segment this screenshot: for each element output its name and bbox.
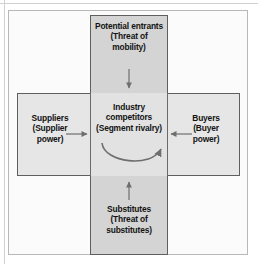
substitutes-label: Substitutes (Threat of substitutes): [90, 204, 168, 235]
scan-edge-top: [0, 3, 258, 4]
suppliers-label: Suppliers (Supplier power): [18, 113, 82, 144]
five-forces-diagram: Potential entrants (Threat of mobility) …: [8, 10, 248, 255]
industry-competitors-label: Industry competitors (Segment rivalry): [86, 102, 172, 133]
diagram-canvas: Potential entrants (Threat of mobility) …: [0, 0, 258, 264]
potential-entrants-label: Potential entrants (Threat of mobility): [90, 21, 168, 52]
scan-edge-left: [4, 0, 5, 264]
buyers-label: Buyers (Buyer power): [174, 113, 238, 144]
